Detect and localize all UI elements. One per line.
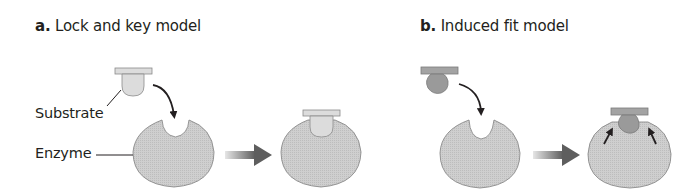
enzyme-a-empty [133, 120, 214, 187]
transition-arrow-a [225, 144, 272, 166]
curved-arrow-b [459, 84, 481, 112]
substrate-leader-line [107, 90, 121, 106]
substrate-b-free [421, 67, 458, 93]
enzyme-b-empty [440, 120, 520, 188]
curved-arrow-a [153, 85, 174, 115]
transition-arrow-b [533, 144, 580, 166]
diagram-art [0, 0, 700, 192]
substrate-a-free [115, 68, 152, 96]
